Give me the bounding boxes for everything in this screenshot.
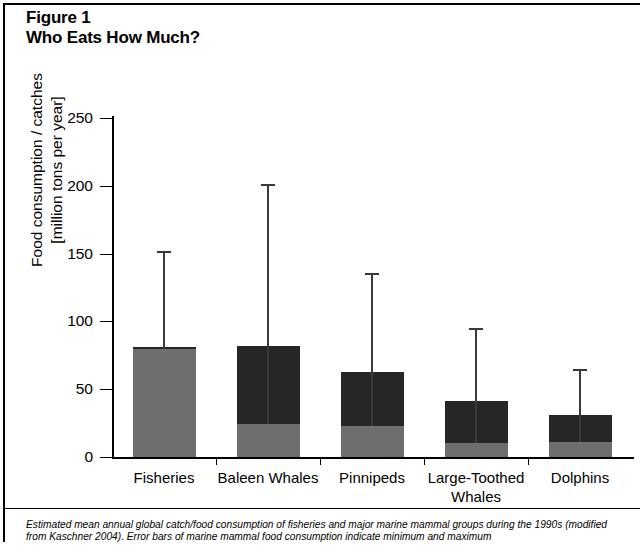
error-bar-fisheries	[163, 251, 165, 349]
y-tick-50	[100, 389, 112, 390]
y-axis-tick-labels: 050100150200250	[33, 0, 93, 545]
caption-line-1: Estimated mean annual global catch/food …	[26, 519, 562, 530]
figure-caption: Estimated mean annual global catch/food …	[26, 519, 626, 542]
x-tick-1	[216, 457, 217, 465]
x-category-label-line: Large-Toothed	[424, 468, 528, 487]
x-category-baleen-whales: Baleen Whales	[216, 468, 320, 487]
error-bar-cap	[573, 369, 587, 371]
error-bar-cap	[157, 251, 171, 253]
x-category-label-line: Pinnipeds	[320, 468, 424, 487]
error-bar-cap	[261, 184, 275, 186]
y-tick-150	[100, 254, 112, 255]
bar-segment-lower	[549, 442, 612, 457]
y-tick-label-150: 150	[33, 247, 93, 261]
x-category-label-line: Baleen Whales	[216, 468, 320, 487]
y-tick-200	[100, 186, 112, 187]
y-tick-100	[100, 321, 112, 322]
y-tick-label-0: 0	[33, 450, 93, 464]
x-category-fisheries: Fisheries	[112, 468, 216, 487]
y-tick-label-100: 100	[33, 314, 93, 328]
caption-divider	[4, 508, 640, 509]
x-category-large-toothed-whales: Large-ToothedWhales	[424, 468, 528, 506]
error-bar-baleen-whales	[267, 184, 269, 424]
y-tick-label-50: 50	[33, 382, 93, 396]
bar-segment-lower	[445, 443, 508, 457]
y-tick-250	[100, 118, 112, 119]
x-tick-4	[528, 457, 529, 465]
chart-plot: Food consumption / catches [million tons…	[0, 0, 643, 545]
x-category-label-line: Dolphins	[528, 468, 632, 487]
x-category-label-line: Whales	[424, 487, 528, 506]
bar-fisheries	[133, 347, 196, 457]
x-tick-2	[320, 457, 321, 465]
error-bar-cap	[365, 273, 379, 275]
error-bar-pinnipeds	[371, 273, 373, 426]
error-bar-dolphins	[579, 369, 581, 442]
y-tick-label-250: 250	[33, 111, 93, 125]
x-category-dolphins: Dolphins	[528, 468, 632, 487]
y-tick-label-200: 200	[33, 179, 93, 193]
x-category-label-line: Fisheries	[112, 468, 216, 487]
x-axis-line	[112, 457, 634, 459]
bar-segment-lower	[341, 426, 404, 457]
x-tick-3	[424, 457, 425, 465]
error-bar-large-toothed-whales	[475, 328, 477, 443]
x-category-pinnipeds: Pinnipeds	[320, 468, 424, 487]
error-bar-cap	[469, 328, 483, 330]
bar-segment-lower	[237, 424, 300, 457]
bar-segment-lower	[133, 349, 196, 457]
y-tick-0	[100, 457, 112, 458]
